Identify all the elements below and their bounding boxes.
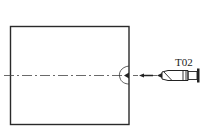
tool-center-drill-icon <box>153 69 200 83</box>
center-drill-mark-icon <box>119 66 129 84</box>
feed-arrow-icon <box>139 74 153 78</box>
diagram-canvas: T02 <box>0 0 205 134</box>
tool-label: T02 <box>175 57 193 68</box>
